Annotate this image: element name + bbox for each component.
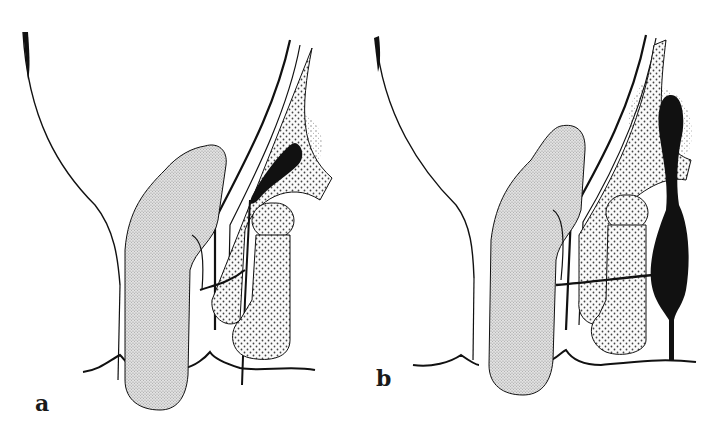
panel-label-b: b: [376, 365, 391, 391]
panel-a: a: [0, 0, 361, 432]
panel-label-a: a: [35, 390, 49, 416]
panel-b: b: [361, 0, 722, 432]
panel-a-illustration: [0, 0, 361, 432]
panel-b-illustration: [361, 0, 722, 432]
